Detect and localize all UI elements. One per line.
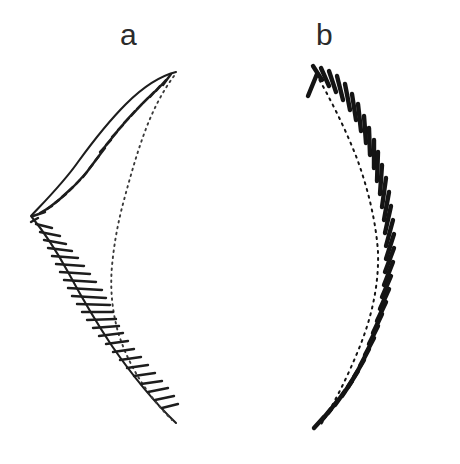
comb-tooth xyxy=(337,76,343,100)
comb-tooth xyxy=(358,104,361,131)
specimen-b-teeth xyxy=(308,66,394,428)
comb-tooth xyxy=(377,152,378,181)
figure-root: a b xyxy=(0,0,460,464)
comb-tooth xyxy=(345,84,350,110)
comb-tooth xyxy=(369,128,370,155)
specimen-drawing-b xyxy=(0,0,460,464)
comb-tooth xyxy=(352,94,356,120)
comb-tooth xyxy=(380,165,382,194)
comb-tooth xyxy=(329,71,336,92)
comb-tooth xyxy=(364,116,366,143)
comb-tooth xyxy=(308,74,317,96)
